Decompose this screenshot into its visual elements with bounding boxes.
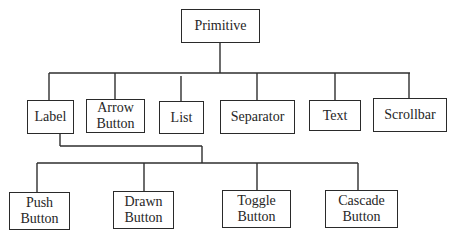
node-cascade-button: Cascade Button [325,190,398,228]
node-toggle-button: Toggle Button [222,190,291,228]
node-scrollbar: Scrollbar [373,98,447,132]
hierarchy-diagram: Primitive Label Arrow Button List Separa… [0,0,452,236]
node-label: Label [27,100,74,134]
node-arrow-button: Arrow Button [86,99,145,133]
node-push-button: Push Button [9,192,70,230]
node-primitive: Primitive [181,9,260,43]
node-drawn-button: Drawn Button [113,191,174,229]
node-list: List [159,101,204,134]
node-separator: Separator [220,100,295,134]
node-text: Text [309,100,361,131]
